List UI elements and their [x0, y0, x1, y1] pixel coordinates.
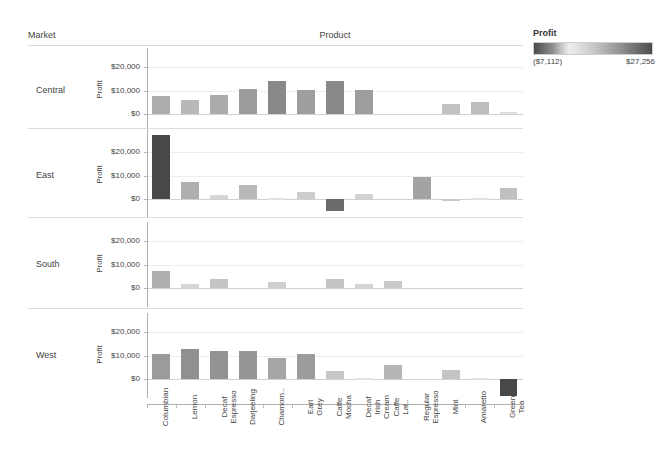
bar[interactable] [442, 104, 460, 114]
y-axis-tick-label: $10,000 [111, 171, 140, 180]
profit-legend: Profit ($7,112) $27,256 [533, 28, 661, 69]
bar[interactable] [471, 102, 489, 114]
bar[interactable] [326, 371, 344, 380]
bar[interactable] [152, 96, 170, 114]
bar[interactable] [442, 370, 460, 379]
category-label-text: Lemon [190, 395, 199, 419]
bar[interactable] [152, 354, 170, 379]
legend-max-label: $27,256 [626, 57, 655, 66]
y-axis-tick-label: $20,000 [111, 236, 140, 245]
y-axis-tick-label: $20,000 [111, 147, 140, 156]
category-label-text: Chamom.. [277, 389, 286, 426]
category-label-decaf-espresso[interactable]: Decaf Espresso [205, 405, 234, 469]
bar[interactable] [326, 199, 344, 211]
bar[interactable] [384, 365, 402, 379]
category-label-amaretto[interactable]: Amaretto [465, 405, 494, 469]
y-axis-line [147, 133, 148, 218]
category-label-caffe-mocha[interactable]: Caffe Mocha [321, 405, 350, 469]
market-panel-east: EastProfit$20,000$10,000$0 [28, 133, 523, 218]
category-label-text: Columbian [161, 388, 170, 426]
bar[interactable] [326, 279, 344, 288]
bar[interactable] [181, 349, 199, 379]
y-axis-line [147, 222, 148, 307]
plot-area: $20,000$10,000$0 [147, 133, 523, 218]
bar[interactable] [471, 378, 489, 380]
category-label-text: Darjeeling [248, 389, 257, 425]
y-axis-tick-label: $0 [131, 374, 140, 383]
chart-root: Market Product Profit ($7,112) $27,256 C… [0, 0, 667, 470]
bar[interactable] [152, 271, 170, 288]
legend-min-label: ($7,112) [533, 57, 562, 66]
bar[interactable] [297, 90, 315, 114]
legend-gradient-ramp [533, 42, 653, 55]
category-label-text: Green Tea [509, 396, 527, 418]
category-label-text: Mint [451, 399, 460, 414]
panel-separator [28, 217, 523, 218]
bar[interactable] [500, 188, 518, 199]
category-label-regular-espresso[interactable]: Regular Espresso [407, 405, 436, 469]
gridline [147, 67, 523, 68]
bar[interactable] [268, 81, 286, 114]
market-row-label: South [28, 259, 88, 269]
bar[interactable] [355, 194, 373, 199]
bar[interactable] [210, 195, 228, 199]
category-label-lemon[interactable]: Lemon [176, 405, 205, 469]
bar[interactable] [239, 351, 257, 379]
y-axis-tick-label: $10,000 [111, 351, 140, 360]
bar[interactable] [297, 354, 315, 379]
bar[interactable] [297, 192, 315, 199]
gridline [147, 176, 523, 177]
bar[interactable] [355, 284, 373, 288]
category-label-mint[interactable]: Mint [436, 405, 465, 469]
bar[interactable] [268, 198, 286, 200]
plot-area: $20,000$10,000$0 [147, 313, 523, 398]
market-header: Market [28, 30, 56, 40]
legend-tick-labels: ($7,112) $27,256 [533, 57, 655, 69]
bar[interactable] [181, 100, 199, 114]
y-axis-tick-label: $0 [131, 109, 140, 118]
bar[interactable] [268, 282, 286, 288]
plot-area: $20,000$10,000$0 [147, 48, 523, 133]
bar[interactable] [239, 89, 257, 114]
market-row-label: East [28, 170, 88, 180]
category-label-darjeeling[interactable]: Darjeeling [234, 405, 263, 469]
bar[interactable] [326, 81, 344, 114]
bar[interactable] [210, 95, 228, 114]
bar[interactable] [384, 281, 402, 288]
bar[interactable] [239, 185, 257, 199]
bar[interactable] [355, 378, 373, 380]
category-label-green-tea[interactable]: Green Tea [494, 405, 523, 469]
zero-line [147, 379, 523, 380]
category-label-caffe-lat[interactable]: Caffe Lat.. [378, 405, 407, 469]
y-axis-line [147, 313, 148, 398]
bar[interactable] [442, 199, 460, 201]
bar[interactable] [210, 351, 228, 380]
category-label-columbian[interactable]: Columbian [147, 405, 176, 469]
y-axis-tick-label: $10,000 [111, 260, 140, 269]
bar[interactable] [500, 379, 518, 396]
y-axis-line [147, 48, 148, 133]
bar[interactable] [500, 112, 518, 114]
gridline [147, 332, 523, 333]
gridline [147, 241, 523, 242]
bar[interactable] [152, 135, 170, 199]
zero-line [147, 114, 523, 115]
bar[interactable] [181, 182, 199, 199]
bar[interactable] [181, 284, 199, 288]
bar[interactable] [210, 279, 228, 288]
bar[interactable] [355, 90, 373, 114]
panel-separator [28, 128, 523, 129]
header-divider [28, 45, 523, 46]
bar[interactable] [413, 177, 431, 199]
category-label-text: Amaretto [480, 391, 489, 423]
category-label-earl-grey[interactable]: Earl Grey [292, 405, 321, 469]
y-axis-title: Profit [95, 165, 104, 184]
gridline [147, 356, 523, 357]
bar[interactable] [268, 358, 286, 379]
gridline [147, 152, 523, 153]
category-label-decaf-irish-cream[interactable]: Decaf Irish Cream [349, 405, 378, 469]
plot-area: $20,000$10,000$0 [147, 222, 523, 307]
y-axis-tick-label: $10,000 [111, 86, 140, 95]
bar[interactable] [471, 198, 489, 200]
category-label-chamom[interactable]: Chamom.. [263, 405, 292, 469]
